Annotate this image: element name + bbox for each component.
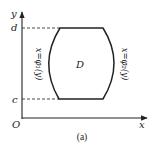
region-label: D (75, 59, 84, 70)
c-level-label: c (12, 94, 18, 105)
origin-label: O (12, 119, 20, 130)
x-axis-label: x (139, 119, 145, 130)
y-axis-label: y (10, 8, 17, 19)
left-boundary-label: x=φ₁(y) (34, 48, 44, 81)
d-level-label: d (11, 22, 17, 33)
diagram-canvas: y x O d c D x=φ₁(y) x=φ₂(y) (a) (0, 0, 155, 152)
figure-caption: (a) (77, 132, 88, 143)
right-boundary-label: x=φ₂(y) (120, 48, 130, 81)
